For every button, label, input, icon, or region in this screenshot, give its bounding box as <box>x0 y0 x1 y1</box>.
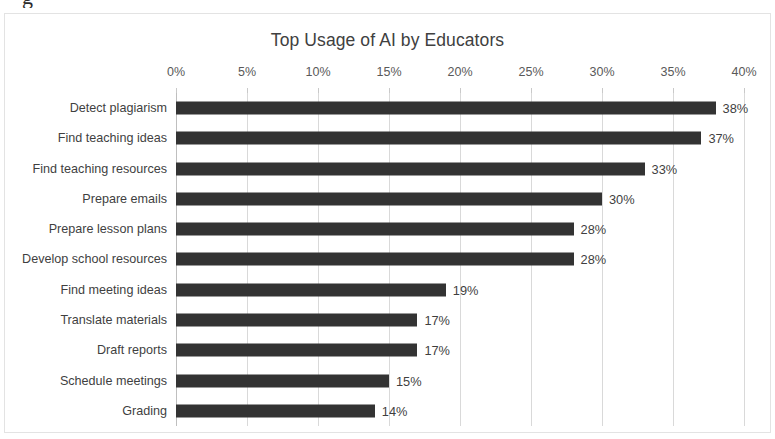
x-tick-label: 0% <box>167 65 185 79</box>
category-label: Schedule meetings <box>60 374 167 388</box>
bar[interactable] <box>176 253 574 266</box>
bar-value-label: 38% <box>723 101 749 116</box>
bar-value-label: 17% <box>424 313 450 328</box>
chart-frame: Top Usage of AI by Educators 0%5%10%15%2… <box>4 13 771 433</box>
chart-screenshot: g Top Usage of AI by Educators 0%5%10%15… <box>0 0 775 439</box>
bar-row: Draft reports17% <box>176 335 744 365</box>
plot-area: 0%5%10%15%20%25%30%35%40% Detect plagiar… <box>176 93 744 426</box>
category-label: Detect plagiarism <box>70 101 167 115</box>
bar-row: Find meeting ideas19% <box>176 275 744 305</box>
x-tick-label: 5% <box>238 65 256 79</box>
bar[interactable] <box>176 162 645 175</box>
bar-value-label: 15% <box>396 373 422 388</box>
bar[interactable] <box>176 132 701 145</box>
chart-title: Top Usage of AI by Educators <box>5 30 770 51</box>
bar-row: Detect plagiarism38% <box>176 93 744 123</box>
category-label: Find teaching ideas <box>58 131 167 145</box>
bar-value-label: 28% <box>581 252 607 267</box>
bar[interactable] <box>176 404 375 417</box>
bar-row: Develop school resources28% <box>176 244 744 274</box>
bar-value-label: 30% <box>609 191 635 206</box>
bar[interactable] <box>176 192 602 205</box>
x-tick-label: 30% <box>589 65 614 79</box>
bar-row: Prepare emails30% <box>176 184 744 214</box>
bar-value-label: 28% <box>581 222 607 237</box>
x-tickmark <box>744 88 745 93</box>
category-label: Prepare lesson plans <box>49 222 167 236</box>
category-label: Prepare emails <box>82 192 167 206</box>
x-tick-label: 20% <box>447 65 472 79</box>
category-label: Translate materials <box>60 313 167 327</box>
bar[interactable] <box>176 344 417 357</box>
category-label: Develop school resources <box>22 252 167 266</box>
bar-row: Schedule meetings15% <box>176 365 744 395</box>
category-label: Grading <box>122 404 167 418</box>
x-tick-label: 35% <box>660 65 685 79</box>
x-tick-label: 15% <box>376 65 401 79</box>
category-label: Find teaching resources <box>33 162 167 176</box>
bar-value-label: 14% <box>382 403 408 418</box>
bar-value-label: 33% <box>652 161 678 176</box>
bar-row: Translate materials17% <box>176 305 744 335</box>
bar-value-label: 19% <box>453 282 479 297</box>
x-tick-label: 10% <box>305 65 330 79</box>
bar[interactable] <box>176 102 716 115</box>
x-tick-label: 25% <box>518 65 543 79</box>
gridline-40pct <box>744 93 745 426</box>
bar-row: Grading14% <box>176 396 744 426</box>
bar[interactable] <box>176 314 417 327</box>
stray-glyph-fragment: g <box>22 0 44 8</box>
x-tick-label: 40% <box>731 65 756 79</box>
bar-row: Find teaching ideas37% <box>176 123 744 153</box>
bar[interactable] <box>176 283 446 296</box>
bar[interactable] <box>176 374 389 387</box>
category-label: Find meeting ideas <box>61 283 167 297</box>
bar[interactable] <box>176 223 574 236</box>
category-label: Draft reports <box>97 343 167 357</box>
bar-value-label: 17% <box>424 343 450 358</box>
bar-row: Find teaching resources33% <box>176 154 744 184</box>
bar-row: Prepare lesson plans28% <box>176 214 744 244</box>
bar-value-label: 37% <box>708 131 734 146</box>
